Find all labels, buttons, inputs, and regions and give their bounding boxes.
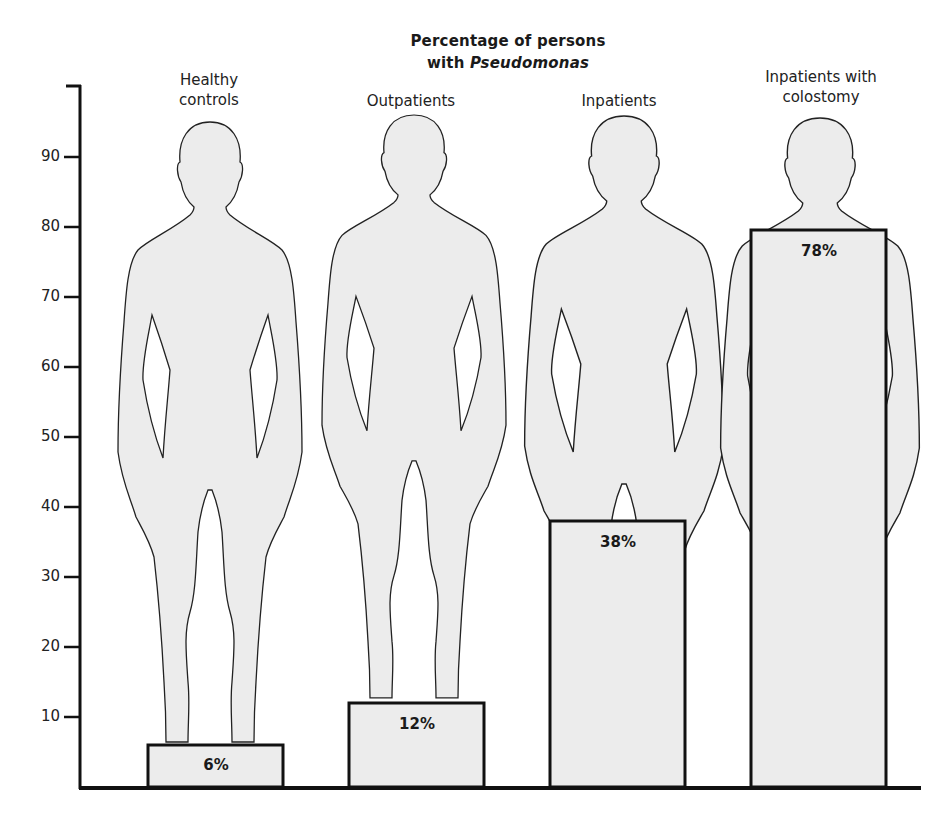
- y-tick-label: 80: [20, 217, 60, 235]
- bar-inpatients: [550, 521, 685, 787]
- y-tick-label: 20: [20, 637, 60, 655]
- y-tick-label: 10: [20, 707, 60, 725]
- y-tick-label: 90: [20, 147, 60, 165]
- figure-outpatients: [322, 115, 506, 698]
- bar-value-label-healthy-controls: 6%: [148, 756, 284, 774]
- chart-title: Percentage of persons with Pseudomonas: [358, 30, 658, 74]
- bar-value-label-outpatients: 12%: [349, 715, 485, 733]
- y-tick-label: 50: [20, 427, 60, 445]
- chart-title-organism: Pseudomonas: [470, 54, 589, 72]
- bar-inpatients-with-colostomy: [751, 230, 886, 787]
- y-tick-label: 40: [20, 497, 60, 515]
- figure-healthy-controls: [118, 122, 302, 742]
- category-label-outpatients: Outpatients: [326, 91, 496, 111]
- y-axis: [64, 85, 81, 789]
- bar-value-label-inpatients: 38%: [550, 533, 686, 551]
- category-label-inpatients: Inpatients: [534, 91, 704, 111]
- pictograph-bar-chart: [0, 0, 952, 814]
- y-tick-label: 60: [20, 357, 60, 375]
- category-label-healthy-controls: Healthy controls: [124, 70, 294, 110]
- chart-title-line2: with Pseudomonas: [358, 52, 658, 74]
- bar-value-label-inpatients-with-colostomy: 78%: [751, 242, 887, 260]
- chart-title-line1: Percentage of persons: [358, 30, 658, 52]
- category-label-inpatients-with-colostomy: Inpatients with colostomy: [736, 67, 906, 107]
- y-tick-label: 30: [20, 567, 60, 585]
- y-tick-label: 70: [20, 287, 60, 305]
